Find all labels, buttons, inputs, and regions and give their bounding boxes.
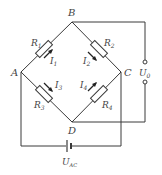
- current-arrow-i4-icon: [88, 82, 97, 91]
- output-terminal-top: [143, 60, 147, 64]
- node-label-d: D: [67, 125, 76, 136]
- node-label-c: C: [124, 67, 132, 78]
- label-i4: I4: [79, 80, 88, 91]
- output-terminal-bottom: [143, 80, 147, 84]
- label-r1: R1: [30, 38, 42, 49]
- label-r2: R2: [103, 38, 115, 49]
- label-source-voltage: UAC: [62, 157, 77, 168]
- node-label-a: A: [10, 67, 18, 78]
- node-label-b: B: [67, 7, 75, 18]
- label-i3: I3: [54, 80, 63, 91]
- circuit-svg: B A C D R1 R2 R3 R4 I1 I2 I3 I4 U0 UAC: [0, 0, 162, 175]
- wheatstone-bridge-diagram: B A C D R1 R2 R3 R4 I1 I2 I3 I4 U0 UAC: [0, 0, 162, 175]
- label-i1: I1: [49, 56, 57, 67]
- label-i2: I2: [82, 56, 91, 67]
- label-r4: R4: [101, 100, 113, 111]
- label-r3: R3: [33, 100, 45, 111]
- label-output-voltage: U0: [139, 68, 151, 79]
